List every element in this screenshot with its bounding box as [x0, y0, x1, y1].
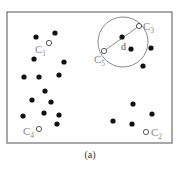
data-point — [148, 45, 153, 50]
data-point — [36, 74, 41, 79]
figure-caption: (a) — [84, 149, 95, 161]
centroid-c2: C2 — [143, 126, 162, 141]
centroid-marker — [143, 129, 148, 134]
cluster-centroids: C1C2C3C4C5 — [23, 20, 162, 141]
data-point — [54, 121, 59, 126]
data-point — [29, 97, 34, 102]
data-point — [41, 110, 46, 115]
data-point — [56, 112, 61, 117]
data-point — [20, 113, 25, 118]
centroid-marker — [46, 40, 51, 45]
data-point — [42, 88, 47, 93]
centroid-marker — [136, 23, 141, 28]
data-point — [128, 46, 133, 51]
distance-label: d — [121, 41, 126, 52]
data-point — [48, 99, 53, 104]
centroid-c1: C1 — [35, 40, 52, 57]
clustering-diagram: d C1C2C3C4C5 (a) — [0, 0, 180, 170]
data-point — [52, 30, 57, 35]
centroid-label: C5 — [94, 53, 105, 68]
centroid-label: C2 — [151, 126, 162, 141]
data-point — [119, 34, 124, 39]
data-point — [129, 121, 134, 126]
data-point — [140, 63, 145, 68]
data-point — [56, 72, 61, 77]
centroid-c4: C4 — [23, 125, 42, 140]
data-point — [61, 59, 66, 64]
data-point — [130, 101, 135, 106]
centroid-label: C1 — [35, 43, 46, 58]
centroid-label: C3 — [143, 20, 154, 35]
data-point — [33, 34, 38, 39]
centroid-marker — [101, 48, 106, 53]
data-point — [110, 118, 115, 123]
centroid-label: C4 — [23, 125, 34, 140]
data-point — [149, 111, 154, 116]
centroid-marker — [36, 126, 41, 131]
centroid-c3: C3 — [136, 20, 154, 35]
data-point — [21, 74, 26, 79]
data-point — [31, 56, 36, 61]
